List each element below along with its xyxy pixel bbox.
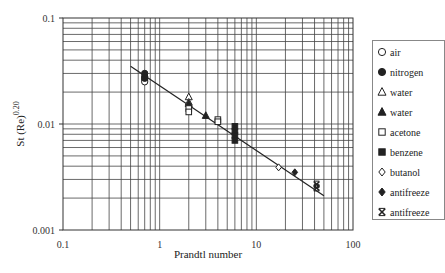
filled-triangle-icon [377,107,387,117]
y-tick-label: 0.01 [38,119,56,130]
legend-label: butanol [390,167,420,178]
open-diamond-icon [377,167,387,177]
open-circle-icon [377,47,387,57]
x-tick-label: 1 [157,239,162,250]
data-point-benzene [232,138,238,144]
filled-diamond-icon [377,187,387,197]
filled-square-icon [377,147,387,157]
legend-item: acetone [373,122,444,142]
legend-label: acetone [390,127,421,138]
x-cross-icon [377,207,387,217]
legend-label: benzene [390,147,423,158]
data-points [142,70,320,191]
open-triangle-icon [377,87,387,97]
legend: airnitrogenwaterwateracetonebenzenebutan… [372,40,445,220]
y-tick-label: 0.001 [33,225,56,236]
open-square-icon [377,127,387,137]
legend-item: water [373,102,444,122]
filled-circle-icon [377,67,387,77]
legend-item: water [373,82,444,102]
legend-item: butanol [373,162,444,182]
data-point-acetone [186,109,192,115]
legend-label: water [390,107,412,118]
tick-labels: 0.11101000.10.010.001 [33,13,361,251]
x-tick-label: 10 [251,239,261,250]
legend-item: air [373,42,444,62]
x-tick-label: 0.1 [57,239,70,250]
data-point-nitrogen-extra [142,70,148,76]
x-tick-label: 100 [346,239,361,250]
legend-label: air [390,47,401,58]
legend-label: antifreeze [390,207,429,218]
data-point-acetone [215,119,221,125]
x-axis-label: Prandtl number [174,248,242,260]
legend-item: antifreeze [373,182,444,202]
legend-label: nitrogen [390,67,423,78]
grid-lines [63,18,353,230]
y-tick-label: 0.1 [43,13,56,24]
legend-label: antifreeze [390,187,429,198]
legend-item: benzene [373,142,444,162]
legend-item: nitrogen [373,62,444,82]
y-axis-label: St (Re)0.20 [12,101,27,146]
legend-label: water [390,87,412,98]
legend-item: antifreeze [373,202,444,222]
